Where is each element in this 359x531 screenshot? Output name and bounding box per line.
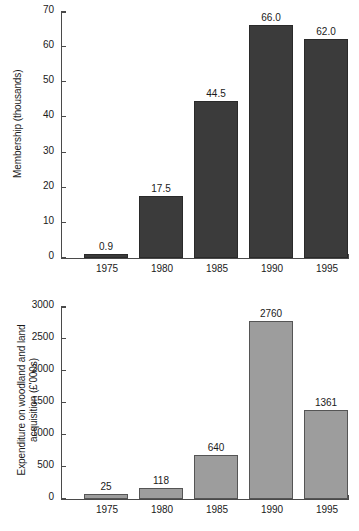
bar-1985: 640 1985 xyxy=(194,455,238,499)
y-tick-label-60: 60 xyxy=(43,39,54,50)
y-tick-label-1000: 1000 xyxy=(32,427,54,438)
bar-value-1990: 66.0 xyxy=(261,12,280,23)
y-axis-top-cap xyxy=(61,12,66,13)
x-axis-line xyxy=(61,258,349,259)
x-category-1995: 1995 xyxy=(293,504,359,515)
bar-1980: 118 1980 xyxy=(139,488,183,499)
x-axis-right-cap xyxy=(348,495,349,500)
y-tick-30: 30 xyxy=(61,152,66,153)
bar-1985: 44.5 1985 xyxy=(194,101,238,258)
y-tick-2000: 2000 xyxy=(61,370,66,371)
y-tick-2500: 2500 xyxy=(61,338,66,339)
y-tick-60: 60 xyxy=(61,46,66,47)
bar-value-1975: 25 xyxy=(100,481,111,492)
bar-1990: 2760 1990 xyxy=(249,321,293,499)
y-tick-label-50: 50 xyxy=(43,74,54,85)
chart-membership: Membership (thousands) 0 10 20 30 40 50 … xyxy=(0,0,359,285)
y-tick-label-2500: 2500 xyxy=(32,331,54,342)
bar-value-1985: 640 xyxy=(208,442,225,453)
bar-1990: 66.0 1990 xyxy=(249,25,293,258)
bar-1980: 17.5 1980 xyxy=(139,196,183,258)
y-tick-label-40: 40 xyxy=(43,109,54,120)
y-tick-label-20: 20 xyxy=(43,180,54,191)
bar-value-1975: 0.9 xyxy=(99,241,113,252)
y-tick-0: 0 xyxy=(61,498,66,499)
y-axis-title-membership: Membership (thousands) xyxy=(12,44,24,204)
y-tick-40: 40 xyxy=(61,116,66,117)
bar-1995: 62.0 1995 xyxy=(304,39,348,258)
y-tick-label-1500: 1500 xyxy=(32,395,54,406)
bar-1995: 1361 1995 xyxy=(304,410,348,499)
x-axis-line xyxy=(61,499,349,500)
y-tick-label-10: 10 xyxy=(43,215,54,226)
chart-expenditure: Expenditure on woodland and land acquisi… xyxy=(0,285,359,531)
y-axis-line xyxy=(61,307,62,500)
x-category-1995: 1995 xyxy=(293,263,359,274)
y-tick-50: 50 xyxy=(61,81,66,82)
y-tick-1000: 1000 xyxy=(61,434,66,435)
y-tick-label-70: 70 xyxy=(43,4,54,15)
plot-area-expenditure: 0 500 1000 1500 2000 2500 3000 25 1975 1… xyxy=(61,307,349,500)
plot-area-membership: 0 10 20 30 40 50 60 70 0.9 1975 xyxy=(61,12,349,259)
y-tick-label-500: 500 xyxy=(37,459,54,470)
y-tick-label-0: 0 xyxy=(48,250,54,261)
bar-value-1980: 17.5 xyxy=(151,183,170,194)
bar-1975: 0.9 1975 xyxy=(84,254,128,258)
x-axis-right-cap xyxy=(348,254,349,259)
bar-value-1985: 44.5 xyxy=(206,88,225,99)
y-tick-label-0: 0 xyxy=(48,491,54,502)
x-tick-left-edge xyxy=(61,255,62,259)
y-axis-top-cap xyxy=(61,307,66,308)
y-tick-3000: 3000 xyxy=(61,306,66,307)
y-tick-label-30: 30 xyxy=(43,145,54,156)
y-tick-label-3000: 3000 xyxy=(32,299,54,310)
bar-value-1990: 2760 xyxy=(260,308,282,319)
y-tick-10: 10 xyxy=(61,222,66,223)
bar-1975: 25 1975 xyxy=(84,494,128,499)
y-tick-20: 20 xyxy=(61,187,66,188)
y-tick-500: 500 xyxy=(61,466,66,467)
y-axis-title-line1: Expenditure on woodland and land xyxy=(16,325,27,476)
bar-value-1995: 62.0 xyxy=(316,26,335,37)
bar-value-1995: 1361 xyxy=(315,397,337,408)
y-tick-1500: 1500 xyxy=(61,402,66,403)
y-tick-label-2000: 2000 xyxy=(32,363,54,374)
y-tick-70: 70 xyxy=(61,11,66,12)
bar-value-1980: 118 xyxy=(153,475,169,486)
